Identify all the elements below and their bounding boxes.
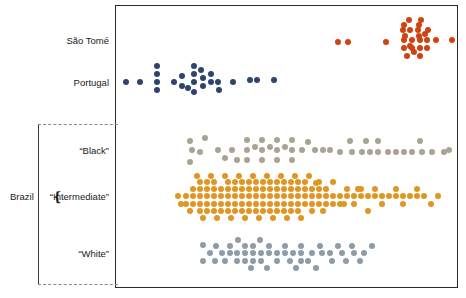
strip-plot-figure: São Tomé Portugal “Black” “Intermediate”… [0,0,466,298]
axis-label-black: “Black” [79,146,109,156]
group-label-brazil: Brazil [10,192,34,202]
plot-frame [115,5,458,288]
brazil-bracket-left-edge [38,124,39,284]
axis-label-white: “White” [78,249,109,259]
brazil-brace-icon: ❴ [52,190,63,203]
axis-label-sao-tome: São Tomé [66,36,109,46]
brazil-bracket-top-edge [38,124,118,125]
brazil-bracket-bottom-edge [38,284,118,285]
axis-label-portugal: Portugal [74,78,109,88]
